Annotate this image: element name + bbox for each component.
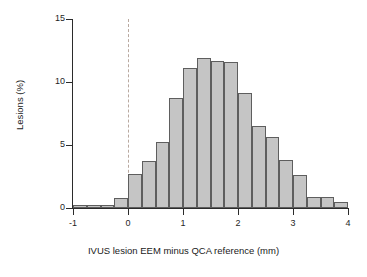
x-tick-mark: [128, 209, 129, 215]
histogram-bar: [101, 205, 115, 208]
histogram-bar: [266, 137, 280, 208]
x-tick-label: -1: [58, 218, 88, 228]
y-tick-label: 15: [25, 14, 65, 23]
histogram-bar: [128, 174, 142, 208]
x-tick-label: 4: [333, 218, 363, 228]
x-tick-label: 3: [278, 218, 308, 228]
histogram-bar: [211, 61, 225, 208]
histogram-bar: [279, 160, 293, 208]
y-tick-mark: [66, 82, 72, 83]
histogram-bar: [156, 142, 170, 208]
histogram-bar: [169, 98, 183, 208]
histogram-bar: [321, 197, 335, 208]
x-axis-line: [73, 208, 349, 209]
histogram-bar: [238, 93, 252, 208]
histogram-bar: [114, 198, 128, 208]
histogram-bar: [183, 68, 197, 208]
histogram-bar: [224, 62, 238, 208]
x-axis-title: IVUS lesion EEM minus QCA reference (mm): [0, 245, 367, 257]
y-tick-mark: [66, 145, 72, 146]
histogram-bar: [197, 58, 211, 208]
x-tick-mark: [73, 209, 74, 215]
y-axis-title: Lesions (%): [14, 55, 26, 155]
y-tick-mark: [66, 19, 72, 20]
histogram-bar: [87, 205, 101, 208]
plot-area: [73, 19, 348, 208]
x-tick-label: 0: [113, 218, 143, 228]
histogram-bar: [252, 126, 266, 208]
histogram-bar: [307, 197, 321, 208]
y-tick-mark: [66, 208, 72, 209]
y-tick-label: 5: [25, 140, 65, 149]
histogram-bar: [73, 205, 87, 208]
x-tick-label: 1: [168, 218, 198, 228]
histogram-bar: [334, 202, 348, 208]
y-tick-label: 10: [25, 77, 65, 86]
histogram-figure: 051015 -101234 IVUS lesion EEM minus QCA…: [0, 0, 367, 277]
x-tick-mark: [183, 209, 184, 215]
x-tick-mark: [348, 209, 349, 215]
y-tick-label: 0: [25, 203, 65, 212]
x-tick-mark: [293, 209, 294, 215]
histogram-bar: [142, 161, 156, 208]
x-tick-label: 2: [223, 218, 253, 228]
x-tick-mark: [238, 209, 239, 215]
histogram-bar: [293, 175, 307, 208]
